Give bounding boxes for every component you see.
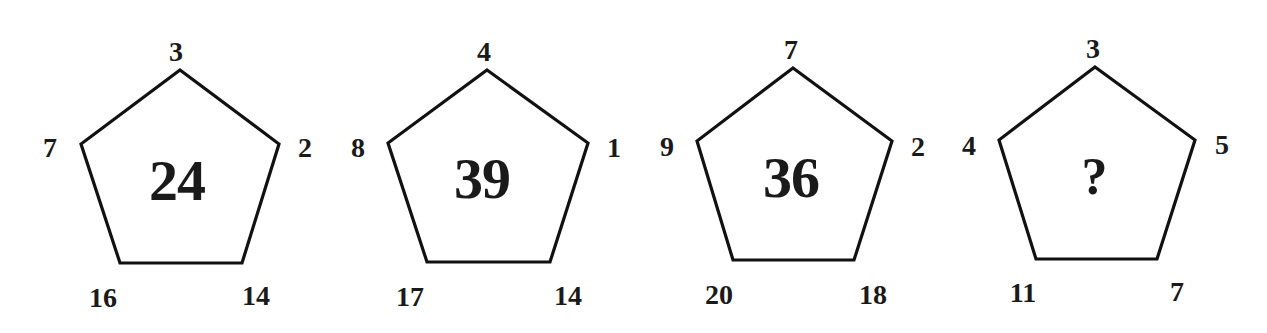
vertex-label-bottom-left: 16 [89, 284, 117, 312]
center-value: 36 [763, 149, 819, 207]
vertex-label-left: 7 [43, 134, 57, 162]
vertex-label-top: 3 [169, 38, 183, 66]
vertex-label-right: 2 [298, 134, 312, 162]
vertex-label-top: 3 [1086, 35, 1100, 63]
vertex-label-bottom-right: 7 [1170, 278, 1184, 306]
vertex-label-right: 1 [607, 134, 621, 162]
vertex-label-top: 7 [784, 36, 798, 64]
vertex-label-bottom-right: 14 [242, 282, 270, 310]
vertex-label-right: 5 [1215, 131, 1229, 159]
vertex-label-bottom-left: 17 [396, 283, 424, 311]
vertex-label-top: 4 [477, 38, 491, 66]
vertex-label-left: 8 [351, 134, 365, 162]
center-value: 39 [454, 150, 510, 208]
vertex-label-left: 9 [660, 133, 674, 161]
vertex-label-left: 4 [962, 132, 976, 160]
unknown-value-question-mark: ? [1082, 151, 1107, 203]
center-value: 24 [149, 152, 205, 210]
vertex-label-bottom-right: 18 [859, 281, 887, 309]
vertex-label-bottom-left: 11 [1010, 279, 1036, 307]
vertex-label-bottom-right: 14 [554, 282, 582, 310]
vertex-label-right: 2 [911, 133, 925, 161]
vertex-label-bottom-left: 20 [705, 281, 733, 309]
